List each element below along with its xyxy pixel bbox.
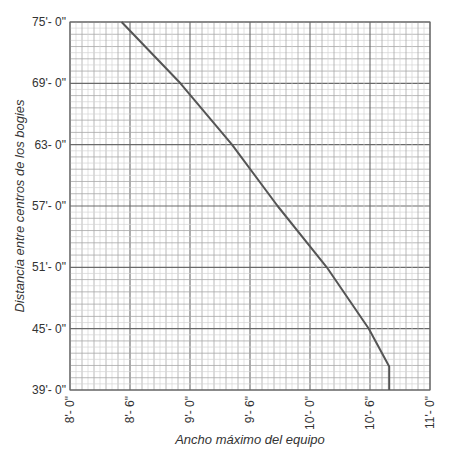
x-axis-tick-labels: 8'- 0"8'- 6"9'- 0"9'- 6"10'- 0"10'- 6"11… [63, 396, 437, 430]
x-tick-label: 10'- 0" [303, 396, 317, 430]
x-tick-label: 9'- 0" [183, 396, 197, 423]
plot-grid [70, 22, 430, 390]
y-tick-label: 75'- 0" [32, 15, 66, 29]
y-tick-label: 69'- 0" [32, 76, 66, 90]
x-tick-label: 8'- 0" [63, 396, 77, 423]
y-tick-label: 51'- 0" [32, 260, 66, 274]
y-tick-label: 57'- 0" [32, 199, 66, 213]
x-tick-label: 9'- 6" [243, 396, 257, 423]
chart: 39'- 0"45'- 0"51'- 0"57'- 0"63- 0"69'- 0… [0, 0, 449, 462]
y-axis-tick-labels: 39'- 0"45'- 0"51'- 0"57'- 0"63- 0"69'- 0… [32, 15, 66, 397]
y-tick-label: 39'- 0" [32, 383, 66, 397]
x-axis-title: Ancho máximo del equipo [174, 432, 325, 447]
x-tick-label: 10'- 6" [363, 396, 377, 430]
x-tick-label: 8'- 6" [123, 396, 137, 423]
x-tick-label: 11'- 0" [423, 396, 437, 429]
y-axis-title: Distancia entre centros de los bogies [12, 99, 27, 313]
y-tick-label: 45'- 0" [32, 322, 66, 336]
y-tick-label: 63- 0" [34, 138, 66, 152]
